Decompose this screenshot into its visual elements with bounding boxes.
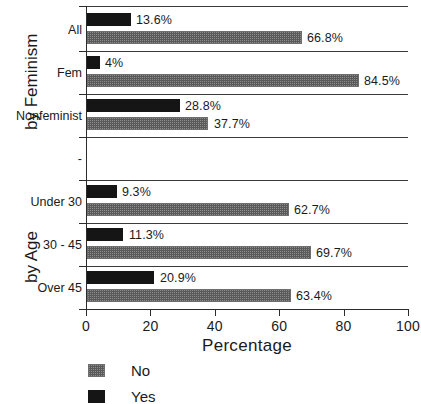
bar-value-all-yes: 13.6%	[136, 13, 172, 27]
y-axis-tick	[79, 6, 86, 7]
bar-under-30-no	[87, 203, 289, 216]
x-axis-tick	[150, 309, 151, 316]
bar-over-45-yes	[87, 271, 154, 284]
bar-value-all-no: 66.8%	[307, 31, 343, 45]
legend-item-yes: Yes	[88, 388, 155, 404]
y-axis-tick	[79, 266, 86, 267]
x-axis-tick	[215, 309, 216, 316]
y-axis-line	[86, 6, 87, 309]
legend-swatch-no-icon	[88, 364, 105, 377]
bar-all-yes	[87, 13, 131, 26]
bar-all-no	[87, 31, 302, 44]
x-tick-label-60: 60	[271, 318, 287, 334]
x-tick-label-40: 40	[207, 318, 223, 334]
y-axis-tick	[79, 94, 86, 95]
row-separator	[86, 223, 408, 224]
bar-value-nonfeminist-yes: 28.8%	[185, 99, 221, 113]
x-axis-line	[86, 309, 408, 310]
x-axis-title: Percentage	[86, 336, 408, 356]
bar-value-nonfeminist-no: 37.7%	[214, 117, 250, 131]
bar-value-30-45-yes: 11.3%	[129, 228, 164, 242]
bar-value-30-45-no: 69.7%	[316, 246, 352, 260]
legend-label-no: No	[131, 362, 150, 379]
x-tick-label-0: 0	[82, 318, 90, 334]
bar-30-45-no	[87, 246, 311, 259]
bar-value-under-30-no: 62.7%	[294, 203, 330, 217]
bar-fem-yes	[87, 56, 100, 69]
x-tick-label-20: 20	[142, 318, 158, 334]
x-axis-tick	[408, 309, 409, 316]
y-axis-tick	[79, 309, 86, 310]
y-axis-tick	[79, 223, 86, 224]
row-separator	[86, 266, 408, 267]
category-label-under-30: Under 30	[31, 195, 82, 209]
bar-value-fem-no: 84.5%	[364, 74, 400, 88]
row-separator	[86, 94, 408, 95]
x-axis-tick	[86, 309, 87, 316]
row-separator	[86, 137, 408, 138]
bar-value-over-45-yes: 20.9%	[160, 271, 196, 285]
legend-swatch-yes-icon	[88, 390, 105, 403]
bar-nonfeminist-no	[87, 117, 208, 130]
row-separator	[86, 51, 408, 52]
x-tick-label-100: 100	[396, 318, 420, 334]
category-label-over-45: Over 45	[38, 281, 82, 295]
bar-over-45-no	[87, 289, 291, 302]
bar-chart: 0 20 40 60 80 100 by Feminism by Age All…	[0, 0, 421, 404]
bar-value-fem-yes: 4%	[105, 56, 123, 70]
category-label-all: All	[68, 23, 82, 37]
category-label-blank: -	[78, 152, 82, 166]
bar-value-over-45-no: 63.4%	[296, 289, 332, 303]
y-axis-tick	[79, 51, 86, 52]
category-label-30-45: 30 - 45	[43, 238, 82, 252]
bar-under-30-yes	[87, 185, 117, 198]
y-axis-tick	[79, 180, 86, 181]
legend-item-no: No	[88, 362, 150, 379]
bar-fem-no	[87, 74, 359, 87]
bar-30-45-yes	[87, 228, 123, 241]
x-axis-tick	[344, 309, 345, 316]
x-axis-tick	[279, 309, 280, 316]
category-label-fem: Fem	[57, 66, 82, 80]
row-separator	[86, 180, 408, 181]
row-separator	[86, 6, 408, 7]
y-axis-tick	[79, 137, 86, 138]
group-label-by-age: by Age	[22, 231, 42, 283]
plot-area	[86, 6, 408, 309]
legend-label-yes: Yes	[131, 388, 155, 404]
bar-nonfeminist-yes	[87, 99, 180, 112]
category-label-nonfeminist: Nonfeminist	[16, 109, 82, 123]
bar-value-under-30-yes: 9.3%	[122, 185, 151, 199]
x-tick-label-80: 80	[336, 318, 352, 334]
